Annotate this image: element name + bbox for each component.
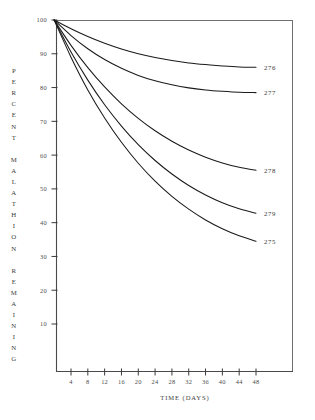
chart-canvas: 102030405060708090100 481216202428323640…	[0, 0, 315, 420]
y-axis-title-letter: E	[12, 111, 17, 118]
y-axis-title-letter: E	[12, 78, 17, 85]
y-tick-label-20: 20	[40, 287, 47, 294]
series-label-276: 276	[264, 64, 276, 71]
series-label-279: 279	[264, 210, 276, 217]
y-axis-title-letter: C	[12, 100, 17, 107]
y-axis-title-letter: I	[13, 311, 16, 318]
series-label-275: 275	[264, 238, 276, 245]
series-curve-276	[54, 20, 256, 67]
series-label-277: 277	[264, 89, 276, 96]
x-tick-label-16: 16	[118, 378, 125, 385]
x-tick-label-40: 40	[219, 378, 226, 385]
x-tick-label-12: 12	[101, 378, 108, 385]
y-axis-title-letter: T	[12, 200, 17, 207]
y-tick-label-70: 70	[40, 118, 47, 125]
y-axis-title-letter: R	[12, 89, 17, 96]
y-axis-title: PERCENTMALATHIONREMAINING	[11, 67, 17, 362]
y-axis-title-letter: E	[12, 278, 17, 285]
x-tick-label-44: 44	[236, 378, 243, 385]
y-axis-title-letter: I	[13, 222, 16, 229]
y-tick-label-40: 40	[40, 219, 47, 226]
x-axis-title: TIME (DAYS)	[160, 394, 209, 402]
y-axis-title-letter: H	[11, 211, 16, 218]
series-label-278: 278	[264, 167, 276, 174]
y-tick-label-50: 50	[40, 185, 47, 192]
y-axis-title-letter: N	[11, 344, 16, 351]
x-tick-label-48: 48	[253, 378, 260, 385]
y-axis-title-letter: G	[11, 355, 16, 362]
series-curve-278	[54, 20, 256, 170]
y-tick-label-90: 90	[40, 50, 47, 57]
y-axis-title-letter: A	[11, 300, 16, 307]
x-tick-label-32: 32	[185, 378, 192, 385]
y-axis-title-letter: M	[11, 289, 17, 296]
y-axis-title-letter: N	[11, 322, 16, 329]
series-curve-279	[54, 20, 256, 213]
y-axis-title-letter: T	[12, 134, 17, 141]
x-tick-label-28: 28	[168, 378, 175, 385]
x-tick-label-4: 4	[69, 378, 73, 385]
x-tick-label-20: 20	[135, 378, 142, 385]
data-series-group	[54, 20, 256, 241]
y-axis-title-letter: N	[11, 123, 16, 130]
y-axis-title-letter: R	[12, 267, 17, 274]
y-tick-label-60: 60	[40, 152, 47, 159]
y-axis-title-letter: L	[12, 178, 17, 185]
y-tick-label-30: 30	[40, 253, 47, 260]
y-axis-title-letter: O	[11, 233, 16, 240]
y-axis-title-letter: I	[13, 333, 16, 340]
plot-frame	[56, 21, 293, 373]
y-tick-label-10: 10	[40, 320, 47, 327]
x-tick-label-24: 24	[152, 378, 159, 385]
y-axis-title-letter: M	[11, 156, 17, 163]
y-axis-title-letter: N	[11, 245, 16, 252]
series-label-group: 276277278279275	[264, 64, 276, 245]
x-tick-label-36: 36	[202, 378, 209, 385]
y-axis-title-letter: A	[11, 167, 16, 174]
y-axis-title-letter: A	[11, 189, 16, 196]
y-axis-ticks: 102030405060708090100	[37, 16, 58, 327]
series-curve-277	[54, 20, 256, 93]
malathion-decay-chart: 102030405060708090100 481216202428323640…	[0, 0, 315, 420]
y-tick-label-80: 80	[40, 84, 47, 91]
y-tick-label-100: 100	[37, 16, 48, 23]
x-tick-label-8: 8	[86, 378, 90, 385]
y-axis-title-letter: P	[12, 67, 16, 74]
